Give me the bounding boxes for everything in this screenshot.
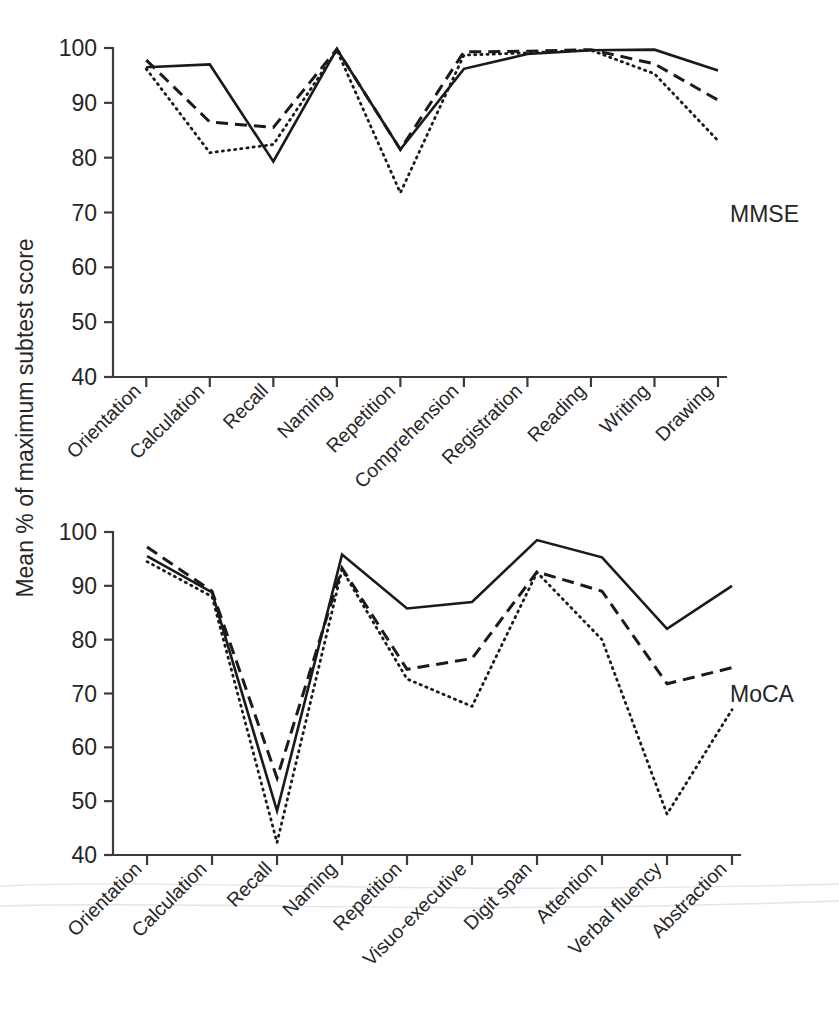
- y-tick-label: 100: [59, 35, 97, 61]
- y-tick-label: 80: [71, 145, 97, 171]
- x-tick-label: Reading: [523, 379, 590, 446]
- y-axis-title: Mean % of maximum subtest score: [12, 238, 38, 597]
- x-tick-label: Naming: [278, 857, 341, 920]
- y-tick-label: 100: [59, 519, 97, 545]
- x-tick-label: Digit span: [459, 857, 536, 934]
- panel-label-mmse: MMSE: [730, 201, 799, 227]
- y-tick-label: 60: [71, 254, 97, 280]
- y-tick-label: 80: [71, 627, 97, 653]
- y-tick-label: 50: [71, 788, 97, 814]
- y-tick-label: 90: [71, 573, 97, 599]
- chart-panel-moca: 405060708090100OrientationCalculationRec…: [59, 519, 740, 970]
- series-line-solid: [147, 540, 732, 811]
- y-tick-label: 70: [71, 200, 97, 226]
- chart-panel-mmse: 405060708090100OrientationCalculationRec…: [59, 35, 726, 492]
- figure-container: Mean % of maximum subtest score MMSE MoC…: [0, 0, 839, 1011]
- x-tick-label: Drawing: [651, 379, 717, 445]
- y-tick-label: 90: [71, 90, 97, 116]
- series-line-dashed: [147, 547, 732, 778]
- panel-label-moca: MoCA: [730, 681, 795, 707]
- x-tick-label: Writing: [595, 379, 653, 437]
- y-tick-label: 70: [71, 681, 97, 707]
- y-tick-label: 50: [71, 309, 97, 335]
- y-tick-label: 40: [71, 842, 97, 868]
- two-panel-line-chart: Mean % of maximum subtest score MMSE MoC…: [0, 0, 839, 1011]
- y-tick-label: 40: [71, 364, 97, 390]
- series-line-dotted: [146, 50, 718, 193]
- y-tick-label: 60: [71, 734, 97, 760]
- x-tick-label: Recall: [218, 379, 272, 433]
- x-tick-label: Recall: [222, 857, 276, 911]
- x-tick-label: Naming: [273, 379, 336, 442]
